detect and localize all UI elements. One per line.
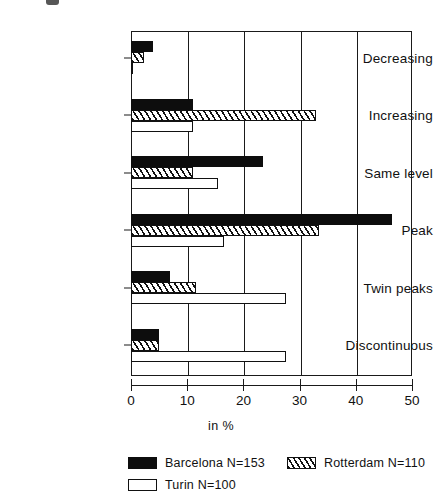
legend-label-barcelona: Barcelona N=153: [165, 456, 265, 470]
bar-rotterdam-peak: [131, 225, 319, 236]
bar-turin-same-level: [131, 178, 218, 189]
bar-barcelona-twin-peaks: [131, 271, 170, 282]
x-axis-title: in %: [0, 419, 442, 433]
legend-entry-turin[interactable]: Turin N=100: [128, 478, 236, 492]
bar-rotterdam-increasing: [131, 110, 316, 121]
x-tick-label-40: 40: [348, 393, 363, 408]
x-tick-40: [356, 379, 357, 391]
legend-swatch-rotterdam-icon: [287, 457, 316, 469]
x-tick-10: [187, 379, 188, 391]
category-label-same-level: Same level: [314, 165, 442, 180]
legend-entry-rotterdam[interactable]: Rotterdam N=110: [287, 456, 425, 470]
gridline-30: [301, 32, 302, 375]
category-tick-0: [124, 57, 131, 58]
bar-rotterdam-discontinuous: [131, 340, 159, 351]
plot-area: [131, 31, 412, 376]
bar-rotterdam-twin-peaks: [131, 282, 196, 293]
bar-turin-decreasing: [131, 63, 133, 74]
category-tick-4: [124, 287, 131, 288]
bar-barcelona-discontinuous: [131, 329, 159, 340]
cropped-text-artifact: [46, 0, 59, 5]
legend-row-1: Barcelona N=153 Rotterdam N=110: [128, 452, 428, 474]
bar-barcelona-peak: [131, 214, 392, 225]
x-tick-50: [412, 379, 413, 391]
category-label-decreasing: Decreasing: [314, 50, 442, 65]
category-label-increasing: Increasing: [314, 108, 442, 123]
bar-rotterdam-same-level: [131, 167, 193, 178]
gridline-20: [244, 32, 245, 375]
bar-turin-discontinuous: [131, 351, 286, 362]
legend-swatch-barcelona-icon: [128, 457, 157, 469]
x-tick-label-10: 10: [180, 393, 195, 408]
bar-turin-peak: [131, 236, 224, 247]
category-tick-2: [124, 172, 131, 173]
bar-barcelona-increasing: [131, 99, 193, 110]
legend: Barcelona N=153 Rotterdam N=110 Turin N=…: [128, 452, 428, 496]
bar-barcelona-same-level: [131, 156, 263, 167]
legend-label-rotterdam: Rotterdam N=110: [324, 456, 425, 470]
category-tick-1: [124, 115, 131, 116]
x-tick-30: [300, 379, 301, 391]
category-tick-5: [124, 345, 131, 346]
x-tick-20: [243, 379, 244, 391]
category-label-twin-peaks: Twin peaks: [314, 280, 442, 295]
legend-entry-barcelona[interactable]: Barcelona N=153: [128, 456, 265, 470]
legend-row-2: Turin N=100: [128, 474, 428, 496]
category-label-discontinuous: Discontinuous: [314, 338, 442, 353]
bar-turin-increasing: [131, 121, 193, 132]
gridline-40: [357, 32, 358, 375]
x-tick-label-0: 0: [127, 393, 135, 408]
category-label-peak: Peak: [314, 223, 442, 238]
bar-turin-twin-peaks: [131, 293, 286, 304]
x-tick-label-20: 20: [236, 393, 251, 408]
legend-label-turin: Turin N=100: [165, 478, 236, 492]
x-axis-line: [131, 385, 412, 386]
bar-chart-figure: DecreasingIncreasingSame levelPeakTwin p…: [0, 0, 442, 504]
bar-barcelona-decreasing: [131, 41, 153, 52]
category-tick-3: [124, 230, 131, 231]
gridline-10: [188, 32, 189, 375]
legend-swatch-turin-icon: [128, 479, 157, 491]
x-tick-0: [131, 379, 132, 391]
x-tick-label-50: 50: [404, 393, 419, 408]
x-tick-label-30: 30: [292, 393, 307, 408]
bar-rotterdam-decreasing: [131, 52, 144, 63]
